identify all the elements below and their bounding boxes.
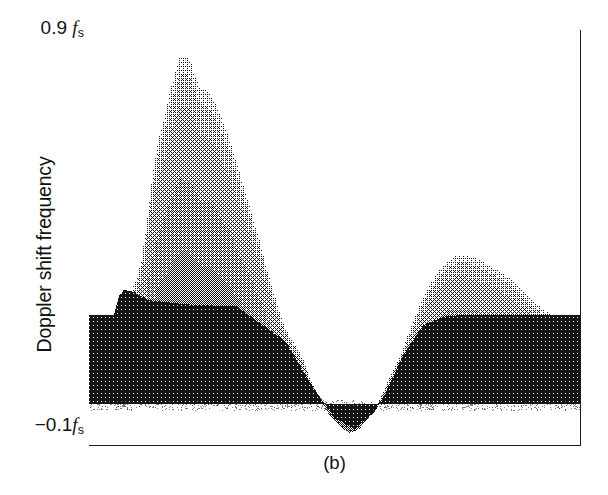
y-axis-tick-min: −0.1fs [6, 414, 84, 437]
y-axis-tick-max-unit: fs [72, 17, 84, 38]
y-axis-title: Doppler shift frequency [33, 125, 56, 385]
y-axis-tick-max: 0.9 fs [16, 17, 84, 40]
y-axis-tick-min-subscript: s [78, 423, 84, 437]
y-axis-tick-min-unit: fs [72, 414, 84, 435]
y-axis-tick-max-value: 0.9 [41, 17, 67, 38]
spectrogram-canvas [89, 30, 580, 445]
plot-area [89, 30, 580, 445]
y-axis-tick-max-subscript: s [78, 26, 84, 40]
figure-caption: (b) [89, 452, 580, 474]
y-axis-tick-min-value: −0.1 [35, 414, 73, 435]
figure-container: Doppler shift frequency 0.9 fs −0.1fs (b… [0, 0, 608, 495]
